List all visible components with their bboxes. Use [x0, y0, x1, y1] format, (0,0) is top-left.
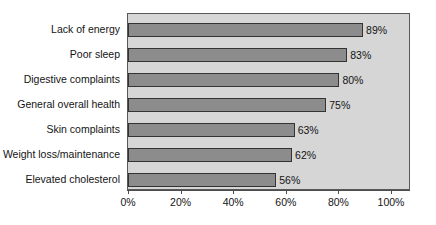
category-label: Lack of energy — [51, 22, 120, 36]
x-tick-mark — [128, 190, 129, 194]
category-label: Poor sleep — [70, 47, 120, 61]
category-label: Weight loss/maintenance — [3, 147, 120, 161]
bar — [128, 148, 292, 162]
x-tick-label: 100% — [378, 196, 405, 208]
bar — [128, 73, 339, 87]
category-label: Digestive complaints — [24, 72, 120, 86]
x-tick-label: 80% — [328, 196, 349, 208]
category-label: Elevated cholesterol — [25, 172, 120, 186]
category-label: Skin complaints — [46, 122, 120, 136]
bar-value-label: 83% — [350, 48, 371, 62]
bar-value-label: 56% — [279, 173, 300, 187]
x-axis-line — [127, 190, 410, 191]
bar-value-label: 62% — [295, 148, 316, 162]
bar-value-label: 80% — [342, 73, 363, 87]
bar-value-label: 63% — [298, 123, 319, 137]
bar — [128, 48, 347, 62]
bar-value-label: 75% — [329, 98, 350, 112]
x-tick-mark — [391, 190, 392, 194]
x-tick-label: 40% — [223, 196, 244, 208]
bar — [128, 173, 276, 187]
x-tick-mark — [286, 190, 287, 194]
x-tick-label: 0% — [120, 196, 135, 208]
bar — [128, 23, 363, 37]
category-label: General overall health — [17, 97, 120, 111]
bars-container: 89%83%80%75%63%62%56% — [128, 14, 409, 189]
bar — [128, 98, 326, 112]
x-tick-label: 20% — [170, 196, 191, 208]
bar-value-label: 89% — [366, 23, 387, 37]
x-tick-label: 60% — [275, 196, 296, 208]
category-axis-labels: Lack of energyPoor sleepDigestive compla… — [0, 13, 124, 190]
plot-area: 89%83%80%75%63%62%56% — [127, 13, 410, 190]
x-tick-mark — [181, 190, 182, 194]
bar-chart: Lack of energyPoor sleepDigestive compla… — [0, 0, 436, 225]
x-tick-mark — [338, 190, 339, 194]
x-tick-mark — [233, 190, 234, 194]
bar — [128, 123, 295, 137]
